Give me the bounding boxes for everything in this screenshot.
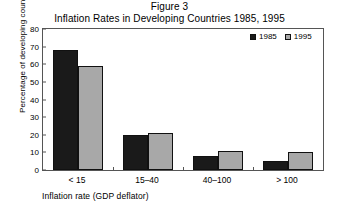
x-axis-tick-label: 15–40 bbox=[135, 175, 159, 185]
x-axis-tick-label: < 15 bbox=[69, 175, 86, 185]
y-axis-tick-mark bbox=[43, 170, 46, 171]
legend-label-1995: 1995 bbox=[294, 33, 312, 41]
x-axis-tick-label: > 100 bbox=[276, 175, 298, 185]
y-axis-tick-mark bbox=[43, 152, 46, 153]
figure-number: Figure 3 bbox=[0, 1, 339, 13]
x-axis-tick-mark bbox=[183, 167, 184, 171]
bar-1995-<15 bbox=[78, 66, 103, 170]
y-axis-tick-mark bbox=[43, 64, 46, 65]
y-axis-tick-label: 50 bbox=[30, 77, 43, 86]
bar-1985-15–40 bbox=[123, 135, 148, 170]
legend-entry-1995: 1995 bbox=[285, 33, 312, 41]
y-axis-tick-label: 40 bbox=[30, 95, 43, 104]
x-axis-tick-mark bbox=[113, 167, 114, 171]
bar-1985-40–100 bbox=[193, 156, 218, 170]
plot-area: 01020304050607080 bbox=[42, 28, 324, 171]
legend-swatch-icon-1995 bbox=[285, 34, 291, 40]
x-axis-title: Inflation rate (GDP deflator) bbox=[42, 191, 149, 201]
legend-entry-1985: 1985 bbox=[250, 33, 277, 41]
y-axis-tick-label: 60 bbox=[30, 60, 43, 69]
y-axis-tick-label: 10 bbox=[30, 148, 43, 157]
figure-container: Figure 3 Inflation Rates in Developing C… bbox=[0, 0, 339, 203]
legend-swatch-icon-1985 bbox=[250, 34, 256, 40]
y-axis-title: Percentage of developing countries bbox=[18, 0, 27, 123]
bar-1995-15–40 bbox=[148, 133, 173, 170]
legend-label-1985: 1985 bbox=[259, 33, 277, 41]
x-axis-tick-label: 40–100 bbox=[203, 175, 231, 185]
bar-1995-40–100 bbox=[218, 151, 243, 170]
x-axis-tick-mark bbox=[253, 167, 254, 171]
y-axis-tick-label: 0 bbox=[35, 166, 43, 175]
bar-1985-<15 bbox=[53, 50, 78, 170]
chart-subtitle: Inflation Rates in Developing Countries … bbox=[0, 13, 339, 25]
y-axis-tick-label: 30 bbox=[30, 113, 43, 122]
y-axis-tick-mark bbox=[43, 81, 46, 82]
chart-title-block: Figure 3 Inflation Rates in Developing C… bbox=[0, 1, 339, 25]
bar-1995->100 bbox=[288, 152, 313, 170]
chart-legend: 1985 1995 bbox=[250, 33, 312, 41]
y-axis-tick-mark bbox=[43, 99, 46, 100]
y-axis-tick-label: 80 bbox=[30, 25, 43, 34]
y-axis-tick-label: 20 bbox=[30, 130, 43, 139]
y-axis-title-wrap: Percentage of developing countries bbox=[0, 28, 14, 171]
y-axis-tick-label: 70 bbox=[30, 42, 43, 51]
y-axis-tick-mark bbox=[43, 46, 46, 47]
bar-1985->100 bbox=[263, 161, 288, 170]
y-axis-tick-mark bbox=[43, 134, 46, 135]
y-axis-tick-mark bbox=[43, 29, 46, 30]
y-axis-tick-mark bbox=[43, 117, 46, 118]
